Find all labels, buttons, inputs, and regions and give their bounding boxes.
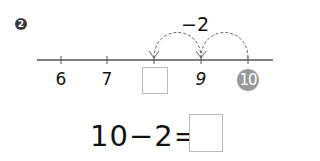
equation-right: 2 — [154, 119, 173, 153]
tick-label-6: 6 — [51, 69, 71, 89]
equation-answer-box[interactable] — [189, 114, 223, 152]
number-line-blank-box[interactable] — [142, 67, 168, 94]
jump-label: −2 — [181, 13, 209, 35]
tick-label-9: 9 — [191, 69, 211, 89]
equation-left: 10 — [90, 119, 129, 153]
tick-label-7: 7 — [97, 69, 117, 89]
equation-operator: − — [129, 119, 154, 153]
tick-label-10-highlighted: 10 — [237, 69, 259, 91]
jump-arc-10-to-9 — [201, 33, 248, 59]
equation: 10−2= — [90, 119, 199, 153]
jump-arc-9-to-blank — [154, 33, 201, 59]
